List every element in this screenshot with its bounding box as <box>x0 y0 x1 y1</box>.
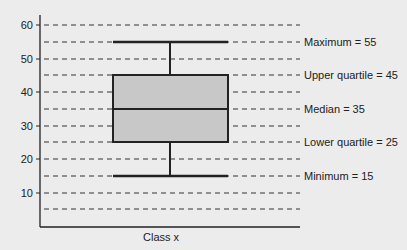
y-tick-60: 60 <box>21 19 33 31</box>
annotation-upper-quartile: Upper quartile = 45 <box>304 69 398 81</box>
annotation-lower-quartile: Lower quartile = 25 <box>304 136 398 148</box>
y-tick-20: 20 <box>21 153 33 165</box>
y-tick-10: 10 <box>21 187 33 199</box>
x-axis-label: Class x <box>143 231 180 243</box>
annotation-median: Median = 35 <box>304 103 365 115</box>
y-tick-50: 50 <box>21 53 33 65</box>
y-tick-40: 40 <box>21 86 33 98</box>
annotation-minimum: Minimum = 15 <box>304 170 373 182</box>
box-class-x <box>113 42 228 176</box>
annotation-maximum: Maximum = 55 <box>304 36 376 48</box>
box-plot: 60 50 40 30 20 10 Maximum = 55 Upper qua… <box>0 0 407 250</box>
y-tick-30: 30 <box>21 120 33 132</box>
